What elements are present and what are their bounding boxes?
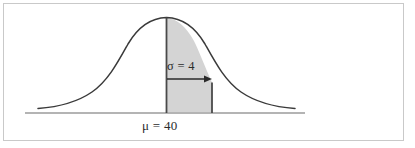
normal-curve-plot — [0, 0, 415, 148]
sigma-annotation-label: σ = 4 — [167, 59, 195, 74]
mu-annotation-label: μ = 40 — [142, 118, 178, 134]
figure-container: σ = 4 μ = 40 — [0, 0, 415, 148]
